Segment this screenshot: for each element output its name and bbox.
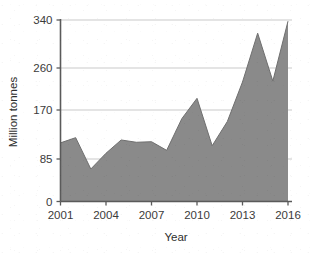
x-tick-label: 2013 [230,209,256,221]
x-tick-label: 2016 [275,209,301,221]
y-tick-label: 0 [46,196,52,208]
y-tick-label: 170 [33,104,52,116]
x-tick-label: 2001 [48,209,74,221]
y-axis-title: Million tonnes [7,77,19,148]
x-tick-label: 2004 [93,209,119,221]
chart-canvas: 085170260340 200120042007201020132016 Ye… [0,0,311,254]
x-tick-label: 2010 [184,209,210,221]
x-axis-title: Year [164,231,187,243]
y-tick-label: 85 [40,153,53,165]
y-tick-label: 260 [33,62,52,74]
area-chart: 085170260340 200120042007201020132016 Ye… [0,0,311,254]
x-tick-label: 2007 [139,209,165,221]
y-tick-label: 340 [33,14,52,26]
